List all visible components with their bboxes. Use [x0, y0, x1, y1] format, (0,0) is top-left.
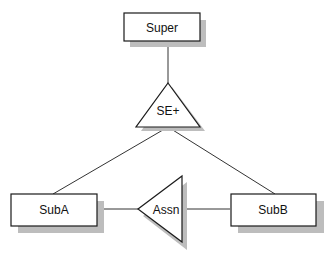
node-label-assn: Assn [153, 203, 180, 217]
node-label-sub-b: SubB [258, 203, 287, 217]
node-sub-b[interactable]: SubB [231, 194, 324, 233]
node-label-se-plus: SE+ [156, 104, 179, 118]
node-super[interactable]: Super [124, 13, 206, 47]
node-assn[interactable]: Assn [138, 176, 187, 250]
node-sub-a[interactable]: SubA [11, 194, 104, 233]
edge-se-suba [53, 127, 168, 194]
edge-se-subb [168, 127, 275, 194]
node-label-sub-a: SubA [39, 203, 68, 217]
node-se-plus[interactable]: SE+ [136, 83, 205, 131]
node-label-super: Super [146, 21, 178, 35]
diagram-canvas: Super SE+ SubA Assn SubB [0, 0, 332, 262]
